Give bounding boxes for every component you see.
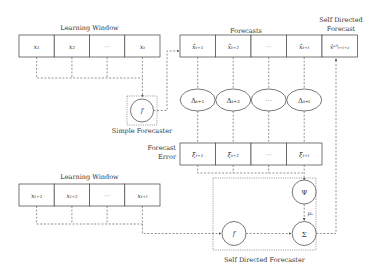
forecast-error-row: ξₜ₊₁ ξₜ₊₂ ··· ξₜ₊ₗ bbox=[180, 143, 322, 165]
mu-label: μₛ bbox=[308, 210, 314, 217]
sd-forecast-label-line1: Self Directed bbox=[319, 16, 362, 24]
sd-forecast-value: x̂ˢᴰₜ₊ₗ₊₁ bbox=[330, 44, 349, 50]
bottom-window-cell: xₗ₊₂ bbox=[66, 192, 78, 200]
error-cell: ξₜ₊ₗ bbox=[299, 151, 310, 159]
forecast-error-label-line1: Forecast bbox=[148, 144, 177, 152]
sd-forecast-label-line2: Forecast bbox=[327, 25, 356, 33]
bottom-window-label: Learning Window bbox=[60, 173, 119, 181]
forecast-cell: x̂ₜ₊₂ bbox=[228, 43, 240, 51]
top-window-label: Learning Window bbox=[60, 24, 119, 32]
delta-node: Δₜ₊₁ bbox=[191, 97, 204, 105]
bottom-window-cell: ··· bbox=[104, 192, 110, 200]
delta-row: Δₜ₊₁ Δₜ₊₂ ··· Δₜ₊ₗ bbox=[180, 89, 322, 111]
top-window-cell: x₂ bbox=[69, 43, 76, 51]
top-learning-window: x₁ x₂ ··· xₜ bbox=[19, 35, 160, 57]
top-window-cell: x₁ bbox=[33, 43, 39, 51]
simple-forecaster-label: Simple Forecaster bbox=[112, 127, 173, 135]
forecast-cell: x̂ₜ₊ₗ bbox=[299, 43, 310, 51]
forecast-error-label-line2: Error bbox=[158, 153, 177, 161]
sd-forecaster-label: Self Directed Forecaster bbox=[224, 256, 306, 264]
forecasts-label: Forecasts bbox=[230, 27, 262, 35]
bottom-learning-window: xₗ₊₁ xₗ₊₂ ··· xₜ₊ₗ bbox=[19, 184, 160, 206]
bottom-window-cell: xₜ₊ₗ bbox=[137, 192, 148, 200]
delta-node: Δₜ₊ₗ bbox=[298, 97, 310, 105]
error-cell: ξₜ₊₁ bbox=[192, 151, 203, 159]
forecast-cell: x̂ₜ₊₁ bbox=[192, 43, 203, 51]
diagram-canvas: Learning Window x₁ x₂ ··· xₜ f Simple Fo… bbox=[0, 0, 381, 278]
error-cell: ··· bbox=[266, 151, 272, 159]
delta-node: Δₜ₊₂ bbox=[227, 97, 240, 105]
forecasts-row: x̂ₜ₊₁ x̂ₜ₊₂ ··· x̂ₜ₊ₗ x̂ˢᴰₜ₊ₗ₊₁ bbox=[180, 35, 358, 57]
sigma-symbol: Σ bbox=[302, 231, 307, 239]
delta-node: ··· bbox=[265, 97, 272, 105]
bottom-window-cell: xₗ₊₁ bbox=[31, 192, 42, 200]
psi-symbol: Ψ bbox=[301, 189, 307, 197]
error-cell: ξₜ₊₂ bbox=[228, 151, 240, 159]
top-window-cell: xₜ bbox=[140, 43, 146, 51]
top-window-cell: ··· bbox=[104, 43, 110, 51]
forecast-cell: ··· bbox=[266, 43, 272, 51]
